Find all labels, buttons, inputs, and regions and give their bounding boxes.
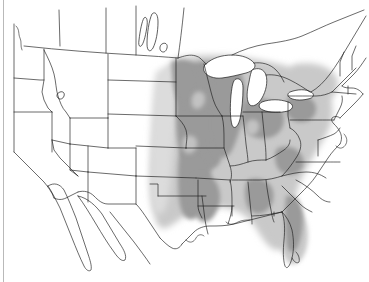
distribution-map-figure (0, 0, 369, 282)
lake-erie (259, 100, 292, 113)
left-margin-rule (3, 0, 4, 282)
map-canvas (0, 0, 369, 282)
lake-of-the-woods (160, 43, 167, 52)
lake-ontario (288, 90, 313, 100)
